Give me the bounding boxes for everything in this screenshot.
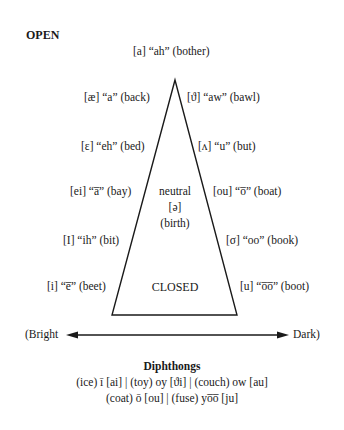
left-vowel-1: [æ] “a” (back) xyxy=(84,92,150,104)
diphthongs-heading: Diphthongs xyxy=(0,361,344,373)
top-vowel: [a] “ah” (bother) xyxy=(133,46,210,58)
left-vowel-5: [i] “e̅” (beet) xyxy=(47,281,106,293)
open-label: OPEN xyxy=(26,29,59,41)
right-vowel-1: [ϑ] “aw” (bawl) xyxy=(187,92,260,104)
neutral-label: neutral xyxy=(150,186,200,198)
right-vowel-3: [ou] “o̅” (boat) xyxy=(213,186,281,198)
left-vowel-4: [I] “ih” (bit) xyxy=(63,235,119,247)
left-vowel-2: [ɛ] “eh” (bed) xyxy=(81,141,145,153)
closed-label: CLOSED xyxy=(140,281,210,293)
diphthongs-line-2: (coat) ō [ou] | (fuse) yo̅o̅ [ju] xyxy=(0,393,344,405)
left-vowel-3: [ei] “a̅” (bay) xyxy=(70,186,131,198)
right-vowel-4: [σ] “oo” (book) xyxy=(226,235,298,247)
dark-label: Dark) xyxy=(293,329,320,341)
right-vowel-5: [u] “o̅o̅” (boot) xyxy=(240,281,309,293)
right-vowel-2: [ʌ] “u” (but) xyxy=(198,141,255,153)
bright-label: (Bright xyxy=(25,329,58,341)
schwa-symbol: [ə] xyxy=(150,202,200,214)
diphthongs-line-1: (ice) ī [ai] | (toy) oy [ϑi] | (couch) o… xyxy=(0,377,344,389)
birth-example: (birth) xyxy=(150,218,200,230)
